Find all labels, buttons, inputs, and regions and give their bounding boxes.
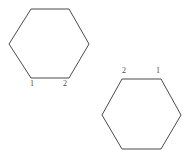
hexagon-lower-right xyxy=(102,79,181,149)
hexagon-lower-right-vertex-label-1: 1 xyxy=(156,67,160,75)
hexagon-upper-left-vertex-label-1: 1 xyxy=(30,80,34,88)
hexagon-upper-left-vertex-label-2: 2 xyxy=(63,80,67,88)
hexagon-lower-right-vertex-label-2: 2 xyxy=(122,67,126,75)
diagram-canvas: 1 2 2 1 xyxy=(0,0,194,161)
hexagon-upper-left xyxy=(9,9,89,78)
